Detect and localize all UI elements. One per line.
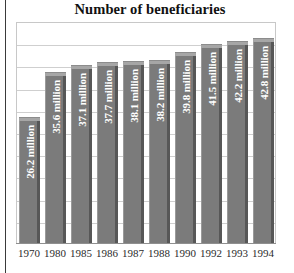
bar-left-highlight bbox=[71, 69, 72, 244]
bar-side-face bbox=[63, 76, 66, 244]
bar-top-face bbox=[71, 65, 92, 69]
bar[interactable]: 39.8 million bbox=[175, 56, 196, 244]
bar-top-face bbox=[97, 62, 118, 66]
bar-series: 26.2 million35.6 million37.1 million37.7… bbox=[16, 22, 276, 244]
bar-column[interactable]: 38.2 million bbox=[149, 22, 170, 244]
bar-column[interactable]: 41.5 million bbox=[201, 22, 222, 244]
bar-side-face bbox=[219, 48, 222, 244]
bar[interactable]: 42.2 million bbox=[227, 45, 248, 244]
bar-left-highlight bbox=[253, 42, 254, 244]
bar-column[interactable]: 26.2 million bbox=[19, 22, 40, 244]
bar[interactable]: 38.1 million bbox=[123, 65, 144, 244]
x-axis-tick-label: 1986 bbox=[94, 247, 120, 259]
bar-column[interactable]: 37.7 million bbox=[97, 22, 118, 244]
bar-top-face bbox=[123, 61, 144, 65]
bar-column[interactable]: 35.6 million bbox=[45, 22, 66, 244]
bar-side-face bbox=[193, 56, 196, 244]
x-axis-tick-label: 1990 bbox=[172, 247, 198, 259]
bar-side-face bbox=[141, 65, 144, 244]
bar-column[interactable]: 37.1 million bbox=[71, 22, 92, 244]
bar-top-face bbox=[175, 52, 196, 56]
bar[interactable]: 35.6 million bbox=[45, 76, 66, 244]
bar-left-highlight bbox=[45, 76, 46, 244]
bar-side-face bbox=[115, 66, 118, 244]
bar-column[interactable]: 38.1 million bbox=[123, 22, 144, 244]
bar-side-face bbox=[245, 45, 248, 244]
bar-top-face bbox=[227, 41, 248, 45]
bar-side-face bbox=[89, 69, 92, 244]
bar-top-face bbox=[45, 72, 66, 76]
bar-top-face bbox=[19, 117, 40, 121]
x-axis-tick-label: 1987 bbox=[120, 247, 146, 259]
bar-left-highlight bbox=[149, 64, 150, 244]
x-axis-tick-label: 1988 bbox=[146, 247, 172, 259]
bar-top-face bbox=[149, 60, 170, 64]
bar[interactable]: 26.2 million bbox=[19, 121, 40, 244]
bar-side-face bbox=[167, 64, 170, 244]
bar-left-highlight bbox=[201, 48, 202, 244]
chart-screenshot: Number of beneficiaries 26.2 million35.6… bbox=[0, 0, 294, 273]
bar[interactable]: 37.7 million bbox=[97, 66, 118, 244]
bar-column[interactable]: 39.8 million bbox=[175, 22, 196, 244]
x-axis-tick-label: 1992 bbox=[198, 247, 224, 259]
bar-left-highlight bbox=[123, 65, 124, 244]
x-axis-tick-label: 1993 bbox=[224, 247, 250, 259]
bar[interactable]: 41.5 million bbox=[201, 48, 222, 244]
bar[interactable]: 42.8 million bbox=[253, 42, 274, 244]
bar-left-highlight bbox=[97, 66, 98, 244]
bar-left-highlight bbox=[19, 121, 20, 244]
bar-column[interactable]: 42.2 million bbox=[227, 22, 248, 244]
x-axis-tick-label: 1985 bbox=[68, 247, 94, 259]
x-axis-tick-labels: 1970198019851986198719881990199219931994 bbox=[16, 247, 276, 265]
chart-title: Number of beneficiaries bbox=[14, 1, 286, 18]
x-axis-tick-label: 1970 bbox=[16, 247, 42, 259]
outer-frame-left-rule bbox=[5, 0, 6, 273]
x-axis-tick-label: 1994 bbox=[250, 247, 276, 259]
x-axis-line bbox=[16, 243, 276, 244]
bar-side-face bbox=[271, 42, 274, 244]
bar-top-face bbox=[253, 38, 274, 42]
bar-left-highlight bbox=[227, 45, 228, 244]
bar-left-highlight bbox=[175, 56, 176, 244]
x-axis-tick-label: 1980 bbox=[42, 247, 68, 259]
bar[interactable]: 37.1 million bbox=[71, 69, 92, 244]
bar[interactable]: 38.2 million bbox=[149, 64, 170, 244]
bar-column[interactable]: 42.8 million bbox=[253, 22, 274, 244]
bar-top-face bbox=[201, 44, 222, 48]
bar-side-face bbox=[37, 121, 40, 244]
